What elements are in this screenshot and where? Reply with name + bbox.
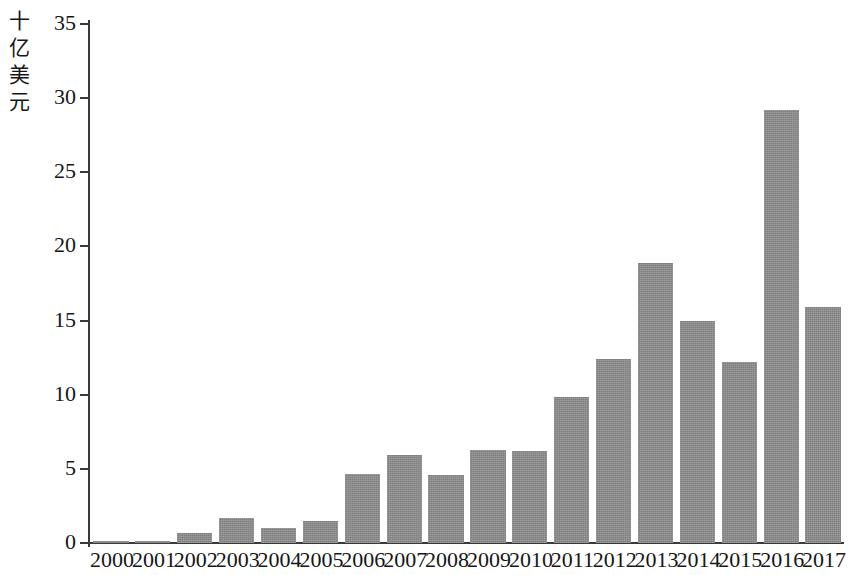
x-tick-label-2002: 2002	[174, 546, 216, 574]
x-tick-label-2014: 2014	[676, 546, 718, 574]
bar-2016[interactable]	[764, 110, 799, 543]
x-tick-label-2000: 2000	[90, 546, 132, 574]
x-tick-label-2006: 2006	[341, 546, 383, 574]
x-tick-label-2001: 2001	[132, 546, 174, 574]
bar-slot-2008	[425, 0, 467, 543]
bar-slot-2012	[593, 0, 635, 543]
bar-chart-figure: 十亿美元 05101520253035 20002001200220032004…	[0, 0, 848, 575]
bar-slot-2007	[383, 0, 425, 543]
bar-slot-2016	[760, 0, 802, 543]
bar-slot-2015	[718, 0, 760, 543]
bar-slot-2004	[258, 0, 300, 543]
x-tick-label-2007: 2007	[383, 546, 425, 574]
bar-2011[interactable]	[554, 397, 589, 543]
x-tick-label-2017: 2017	[802, 546, 844, 574]
bar-2014[interactable]	[680, 321, 715, 543]
x-tick-label-2009: 2009	[467, 546, 509, 574]
bar-2004[interactable]	[261, 528, 296, 543]
bar-2002[interactable]	[177, 533, 212, 543]
x-tick-label-2005: 2005	[299, 546, 341, 574]
bar-2009[interactable]	[470, 450, 505, 543]
y-axis-title: 十亿美元	[4, 8, 34, 116]
bar-slot-2006	[341, 0, 383, 543]
y-tick-label: 20	[54, 232, 76, 258]
x-tick-label-2015: 2015	[718, 546, 760, 574]
y-tick-label: 25	[54, 158, 76, 184]
bar-2007[interactable]	[387, 455, 422, 543]
y-tick-mark	[80, 245, 88, 247]
bar-series	[90, 0, 844, 543]
y-tick-mark	[80, 394, 88, 396]
x-tick-label-2012: 2012	[593, 546, 635, 574]
x-tick-label-2008: 2008	[425, 546, 467, 574]
bar-slot-2013	[635, 0, 677, 543]
bar-2017[interactable]	[805, 307, 840, 543]
bar-slot-2000	[90, 0, 132, 543]
y-tick-mark	[80, 171, 88, 173]
x-tick-label-2011: 2011	[551, 546, 593, 574]
bar-2003[interactable]	[219, 518, 254, 543]
bar-2001[interactable]	[135, 541, 170, 543]
bar-slot-2003	[216, 0, 258, 543]
y-tick-mark	[80, 320, 88, 322]
x-tick-label-2010: 2010	[509, 546, 551, 574]
x-tick-label-2004: 2004	[258, 546, 300, 574]
y-tick-mark	[80, 542, 88, 544]
y-tick-label: 10	[54, 381, 76, 407]
y-tick-label: 5	[65, 455, 76, 481]
y-tick-mark	[80, 23, 88, 25]
bar-slot-2005	[299, 0, 341, 543]
bar-slot-2009	[467, 0, 509, 543]
bar-2015[interactable]	[722, 362, 757, 543]
bar-2000[interactable]	[93, 541, 128, 543]
bar-2006[interactable]	[345, 474, 380, 543]
bar-2012[interactable]	[596, 359, 631, 543]
bar-2013[interactable]	[638, 263, 673, 543]
bar-2010[interactable]	[512, 451, 547, 543]
bar-slot-2010	[509, 0, 551, 543]
bar-slot-2017	[802, 0, 844, 543]
x-tick-label-2013: 2013	[635, 546, 677, 574]
y-tick-label: 35	[54, 10, 76, 36]
bar-2008[interactable]	[428, 475, 463, 543]
bar-2005[interactable]	[303, 521, 338, 543]
x-tick-label-2003: 2003	[216, 546, 258, 574]
x-axis-tick-labels: 2000200120022003200420052006200720082009…	[90, 546, 844, 575]
y-tick-mark	[80, 468, 88, 470]
bar-slot-2002	[174, 0, 216, 543]
x-tick-label-2016: 2016	[760, 546, 802, 574]
y-tick-mark	[80, 97, 88, 99]
y-tick-label: 30	[54, 84, 76, 110]
bar-slot-2011	[551, 0, 593, 543]
bar-slot-2014	[676, 0, 718, 543]
y-tick-label: 0	[65, 529, 76, 555]
y-tick-label: 15	[54, 307, 76, 333]
bar-slot-2001	[132, 0, 174, 543]
